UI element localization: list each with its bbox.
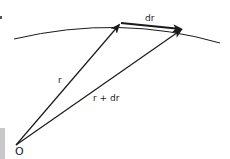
vector-differential-diagram: r r + dr dr O bbox=[0, 0, 230, 159]
label-dr: dr bbox=[145, 13, 155, 23]
edge-mark bbox=[0, 16, 2, 19]
vector-r-arrow bbox=[16, 25, 119, 145]
label-r: r bbox=[58, 75, 62, 85]
label-r-plus-dr: r + dr bbox=[93, 93, 120, 103]
label-origin: O bbox=[15, 145, 24, 158]
margin-bar bbox=[0, 128, 5, 159]
trajectory-curve bbox=[14, 27, 220, 43]
vector-r-plus-dr-arrow bbox=[16, 30, 181, 145]
